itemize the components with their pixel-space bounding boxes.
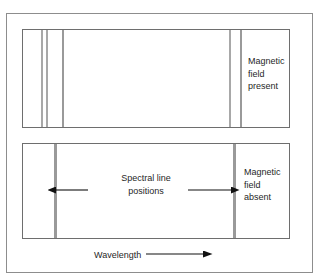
spectral-line <box>46 30 48 127</box>
spectral-line <box>229 30 231 127</box>
panel-caption-field-absent: Magnetic field absent <box>244 166 304 204</box>
figure-root: Magnetic field present Magnetic field ab… <box>0 0 321 280</box>
wavelength-axis-label: Wavelength <box>94 249 141 261</box>
spectral-line <box>54 144 57 238</box>
spectral-line <box>240 30 242 127</box>
spectral-line <box>62 30 64 127</box>
spectral-line-positions-label: Spectral line positions <box>86 172 206 197</box>
panel-caption-field-present: Magnetic field present <box>248 55 308 93</box>
spectral-line <box>233 144 236 238</box>
spectral-line <box>41 30 43 127</box>
